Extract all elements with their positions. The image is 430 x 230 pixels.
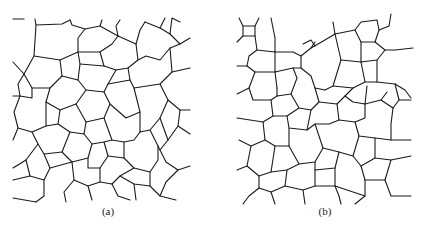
cell-boundary — [120, 172, 150, 186]
cell-boundary — [339, 104, 365, 122]
cell-boundary — [335, 20, 379, 34]
cell-boundary — [124, 146, 158, 172]
cell-boundary — [35, 19, 70, 25]
cell-boundary — [74, 168, 100, 186]
cell-boundary — [134, 68, 190, 88]
cell-boundary — [291, 88, 319, 110]
cell-boundary — [138, 38, 190, 60]
cell-boundary — [333, 86, 353, 88]
cell-boundary — [307, 104, 339, 130]
cell-boundary — [391, 108, 411, 140]
cell-boundary — [70, 20, 85, 29]
cell-boundary — [237, 72, 255, 94]
cell-boundary — [275, 42, 315, 56]
panel-a-microstructure — [0, 0, 215, 205]
cell-boundary — [355, 14, 391, 42]
cell-boundary — [160, 118, 168, 140]
cell-boundary — [62, 132, 92, 162]
cell-boundary — [355, 180, 365, 204]
cell-boundary — [335, 186, 365, 196]
cell-boundary — [32, 132, 62, 154]
cell-boundary — [36, 180, 44, 202]
panel-b-microstructure — [215, 0, 430, 205]
cell-boundary — [395, 84, 411, 100]
cell-boundary — [18, 74, 32, 98]
cell-boundary — [118, 22, 145, 44]
cell-boundary — [92, 140, 112, 144]
cell-boundary — [385, 180, 411, 196]
cell-boundary — [64, 162, 74, 202]
cell-boundary — [104, 118, 140, 142]
cell-boundary — [134, 184, 136, 200]
cell-boundary — [160, 170, 178, 196]
cell-boundary — [88, 186, 92, 200]
cell-boundary — [13, 198, 36, 202]
cell-boundary — [335, 186, 341, 204]
cell-boundary — [375, 42, 413, 50]
cell-boundary — [319, 96, 345, 104]
cell-boundary — [26, 144, 50, 180]
cell-boundary — [100, 36, 138, 70]
cell-boundary — [315, 168, 335, 186]
caption-b: (b) — [305, 205, 345, 217]
cell-network-a — [0, 0, 215, 205]
cell-boundary — [361, 60, 377, 82]
cell-boundary — [145, 22, 180, 44]
cell-boundary — [377, 82, 411, 98]
cell-boundary — [34, 20, 102, 60]
cell-boundary — [13, 176, 30, 180]
cell-boundary — [140, 84, 168, 132]
cell-boundary — [178, 110, 190, 134]
cell-boundary — [50, 162, 72, 168]
cell-boundary — [108, 80, 140, 118]
cell-boundary — [325, 34, 341, 90]
cell-boundary — [275, 68, 297, 96]
cell-boundary — [255, 18, 275, 52]
cell-boundary — [100, 20, 120, 36]
cell-boundary — [237, 50, 257, 66]
cell-boundary — [160, 126, 190, 170]
cell-boundary — [361, 42, 385, 62]
cell-boundary — [80, 64, 104, 66]
cell-boundary — [24, 56, 62, 88]
cell-boundary — [249, 88, 277, 100]
cell-boundary — [271, 192, 275, 204]
cell-boundary — [265, 128, 289, 146]
cell-boundary — [108, 142, 124, 158]
cell-boundary — [160, 18, 165, 28]
caption-a: (a) — [88, 205, 128, 217]
cell-boundary — [243, 188, 259, 204]
cell-boundary — [100, 182, 130, 200]
cell-boundary — [243, 26, 255, 36]
cell-boundary — [76, 90, 110, 122]
cell-boundary — [355, 122, 391, 140]
cell-boundary — [13, 62, 24, 74]
cell-boundary — [375, 138, 411, 160]
cell-boundary — [303, 190, 305, 204]
cell-boundary — [78, 52, 80, 80]
cell-boundary — [311, 22, 335, 48]
cell-network-b — [215, 0, 430, 205]
cell-boundary — [259, 170, 287, 192]
cell-boundary — [381, 100, 399, 108]
cell-boundary — [341, 60, 361, 62]
cell-boundary — [13, 128, 18, 140]
cell-boundary — [168, 100, 190, 110]
cell-boundary — [301, 56, 325, 90]
cell-boundary — [170, 48, 172, 72]
cell-boundary — [104, 70, 116, 92]
cell-boundary — [128, 68, 130, 80]
cell-boundary — [46, 76, 86, 110]
cell-boundary — [271, 164, 299, 172]
cell-boundary — [14, 96, 46, 132]
cell-boundary — [58, 122, 86, 134]
cell-boundary — [13, 160, 26, 168]
cell-boundary — [237, 146, 251, 170]
cell-boundary — [237, 100, 273, 122]
cell-boundary — [239, 122, 265, 146]
cell-boundary — [170, 18, 180, 34]
cell-boundary — [275, 72, 277, 88]
cell-boundary — [353, 136, 375, 166]
cell-boundary — [237, 26, 243, 42]
cell-boundary — [239, 18, 259, 26]
